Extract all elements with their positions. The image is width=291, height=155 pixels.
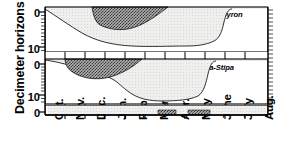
root-depth-chart: Decimeter horizons 0 10 0 10 0 Oct. Nov.… [0, 0, 291, 155]
panel-agropyron [45, 7, 268, 52]
x-ticks-gap-1 [65, 52, 245, 59]
right-axis-ticks [268, 10, 273, 114]
crosshatch-segment-2 [188, 110, 210, 115]
crosshatch-segment-1 [158, 110, 176, 115]
panel-stipa [45, 59, 268, 104]
chart-svg [0, 0, 291, 155]
panel-rigida [45, 105, 268, 115]
y-major-ticks [39, 12, 45, 112]
